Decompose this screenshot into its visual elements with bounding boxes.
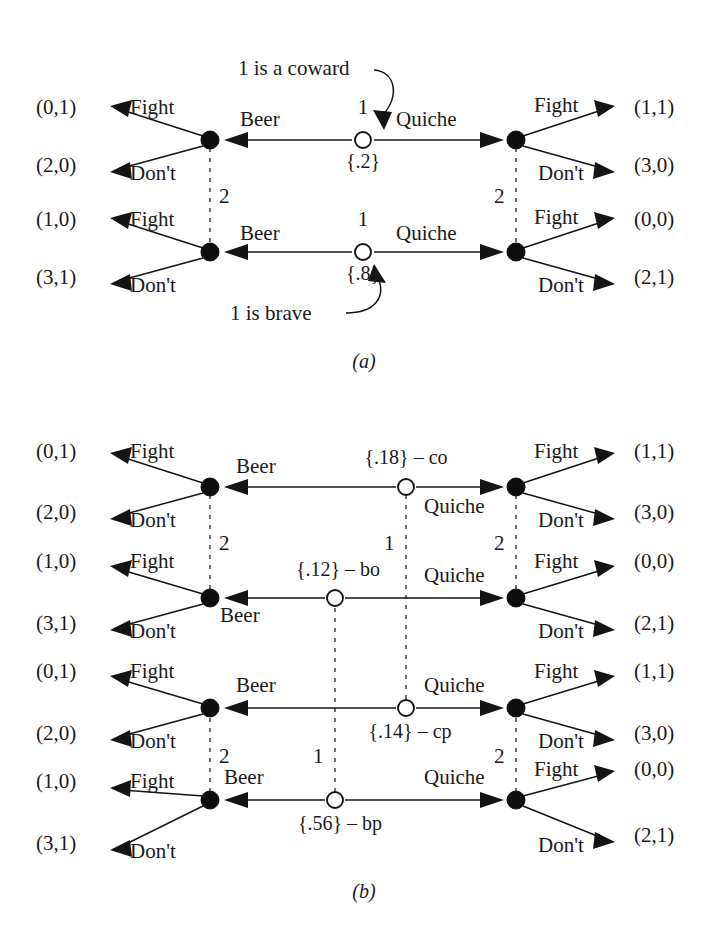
panel-b-r2-right-fight-payoff: (0,0) xyxy=(634,549,674,573)
panel-b-cp-beer-arrowhead xyxy=(224,700,248,716)
panel-a-quiche-decision-node xyxy=(507,131,525,149)
panel-b-r2-right-fight-arrowhead xyxy=(594,560,615,577)
panel-a-r2-left-dont-label: Don't xyxy=(130,273,176,297)
panel-b-quiche-info-set-lower-player: 2 xyxy=(494,744,505,768)
panel-b-r3-right-fight-arrowhead xyxy=(594,670,615,687)
panel-b-cp-beer-label: Beer xyxy=(236,673,276,697)
panel-b-r4-right-dont-payoff: (2,1) xyxy=(634,823,674,847)
panel-a-brave-node-player: 1 xyxy=(358,207,369,231)
panel-b-bo-beer-label: Beer xyxy=(220,603,260,627)
panel-a-brave-nature-node xyxy=(355,244,371,260)
panel-b-r2-left-dont-label: Don't xyxy=(130,619,176,643)
panel-b-quiche-info-set-upper-player: 2 xyxy=(494,531,505,555)
panel-b-r1-quiche-decision-node xyxy=(507,478,525,496)
panel-b-cp-nature-node xyxy=(398,700,414,716)
panel-b-r3-left-fight-payoff: (0,1) xyxy=(36,659,76,683)
panel-b-r4-right-fight-payoff: (0,0) xyxy=(634,757,674,781)
panel-a-r2-left-dont-arrowhead xyxy=(110,274,132,291)
panel-b-r3-quiche-decision-node xyxy=(507,699,525,717)
panel-a-r2-right-fight-label: Fight xyxy=(534,205,579,229)
panel-b-r1-left-fight-payoff: (0,1) xyxy=(36,439,76,463)
panel-a-r2-left-fight-arrowhead xyxy=(110,212,132,229)
panel-a-r1-right-fight-arrowhead xyxy=(594,100,615,117)
panel-b-cp-quiche-label: Quiche xyxy=(424,673,485,697)
panel-b-r3-left-dont-label: Don't xyxy=(130,729,176,753)
panel-b-bp-quiche-label: Quiche xyxy=(424,765,485,789)
panel-b-r3-right-dont-label: Don't xyxy=(538,729,584,753)
panel-b-bp-quiche-arrowhead xyxy=(480,792,504,808)
panel-b-r1-right-fight-label: Fight xyxy=(534,439,579,463)
panel-a-coward-nature-node xyxy=(355,132,371,148)
panel-b-r1-left-dont-payoff: (2,0) xyxy=(36,500,76,524)
panel-a-coward-beer-label: Beer xyxy=(240,107,280,131)
panel-b-caption: (b) xyxy=(352,880,376,903)
panel-b-r2-left-fight-label: Fight xyxy=(130,549,175,573)
panel-a-r2-right-dont-label: Don't xyxy=(538,273,584,297)
panel-b-r4-quiche-decision-node xyxy=(507,791,525,809)
panel-b-r3-right-dont-payoff: (3,0) xyxy=(634,721,674,745)
panel-b-r3-left-dont-payoff: (2,0) xyxy=(36,721,76,745)
panel-a-beer-decision-node xyxy=(201,131,219,149)
panel-b-bo-quiche-arrowhead xyxy=(480,590,504,606)
panel-b-type-info-set-p-player: 1 xyxy=(313,744,324,768)
panel-a-quiche-decision-node-brave xyxy=(507,243,525,261)
panel-b-r1-right-fight-payoff: (1,1) xyxy=(634,439,674,463)
panel-b-bo-nature-node xyxy=(327,590,343,606)
panel-a-r1-left-fight-payoff: (0,1) xyxy=(36,95,76,119)
panel-b-r1-beer-decision-node xyxy=(201,478,219,496)
panel-a-coward-beer-arrowhead xyxy=(224,132,248,148)
panel-a-r1-left-dont-label: Don't xyxy=(130,161,176,185)
panel-b-bo-quiche-label: Quiche xyxy=(424,563,485,587)
panel-b-r4-left-dont-arrowhead xyxy=(110,840,132,857)
panel-b-r4-left-dont-label: Don't xyxy=(130,839,176,863)
panel-b-r2-right-dont-label: Don't xyxy=(538,619,584,643)
brave-annotation-label: 1 is brave xyxy=(230,301,312,325)
panel-b-co-beer-label: Beer xyxy=(236,454,276,478)
panel-b-bp-beer-label: Beer xyxy=(224,765,264,789)
panel-b-co-quiche-arrowhead xyxy=(480,479,504,495)
panel-b-r1-right-dont-arrowhead xyxy=(593,509,615,526)
panel-b-r1-left-dont-label: Don't xyxy=(130,508,176,532)
panel-b-bo-label: {.12} – bo xyxy=(296,558,380,580)
panel-b-r1-right-dont-payoff: (3,0) xyxy=(634,500,674,524)
panel-a-r2-left-dont-payoff: (3,1) xyxy=(36,265,76,289)
panel-b-r2-left-dont-payoff: (3,1) xyxy=(36,611,76,635)
panel-b-r2-left-dont-arrowhead xyxy=(110,620,132,637)
panel-b-r4-right-dont-label: Don't xyxy=(538,833,584,857)
panel-b-co-label: {.18} – co xyxy=(364,446,447,468)
panel-a-caption: (a) xyxy=(352,350,376,373)
panel-b-beer-info-set-upper-player: 2 xyxy=(219,531,230,555)
panel-a-r1-left-fight-label: Fight xyxy=(130,95,175,119)
figure-root: 1 is a coward 1 is brave 2 2 Beer Quiche… xyxy=(0,0,728,945)
panel-a-r1-left-dont-arrowhead xyxy=(110,162,132,179)
panel-a-coward-quiche-label: Quiche xyxy=(396,107,457,131)
panel-b-r2-quiche-decision-node xyxy=(507,589,525,607)
panel-b-r3-right-fight-label: Fight xyxy=(534,659,579,683)
panel-a-r2-right-fight-payoff: (0,0) xyxy=(634,207,674,231)
panel-a-coward-node-player: 1 xyxy=(358,95,369,119)
panel-a-r1-right-fight-payoff: (1,1) xyxy=(634,95,674,119)
panel-b-r3-right-fight-edge xyxy=(523,680,602,704)
panel-b-co-nature-node xyxy=(398,479,414,495)
panel-a-brave-beer-arrowhead xyxy=(224,244,248,260)
panel-a-coward-quiche-arrowhead xyxy=(480,132,504,148)
panel-a-r1-right-fight-label: Fight xyxy=(534,93,579,117)
panel-a-r2-right-fight-arrowhead xyxy=(594,212,615,229)
panel-b-r4-right-fight-arrowhead xyxy=(594,765,615,782)
game-tree-figure: 1 is a coward 1 is brave 2 2 Beer Quiche… xyxy=(0,0,728,945)
coward-annotation-arrowhead xyxy=(373,110,392,130)
panel-a-r1-right-dont-payoff: (3,0) xyxy=(634,153,674,177)
panel-a-brave-beer-label: Beer xyxy=(240,221,280,245)
panel-b-r1-right-fight-arrowhead xyxy=(594,447,615,464)
panel-a-brave-probability: {.8} xyxy=(346,262,380,284)
panel-a-r1-right-dont-arrowhead xyxy=(593,162,615,179)
panel-b-r3-left-fight-label: Fight xyxy=(130,659,175,683)
panel-b-type-info-set-o-player: 1 xyxy=(384,531,395,555)
panel-b-r2-left-fight-arrowhead xyxy=(110,560,132,577)
panel-b-r4-left-dont-payoff: (3,1) xyxy=(36,831,76,855)
panel-b-r1-left-fight-label: Fight xyxy=(130,439,175,463)
panel-b-r3-left-dont-arrowhead xyxy=(110,730,132,747)
panel-a-r1-left-dont-payoff: (2,0) xyxy=(36,153,76,177)
panel-a-quiche-info-set-player: 2 xyxy=(494,184,505,208)
panel-a-coward-probability: {.2} xyxy=(346,150,380,172)
